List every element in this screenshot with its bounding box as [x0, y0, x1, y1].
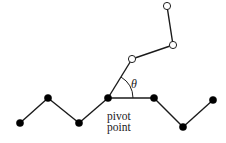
- pivot-monomer: [104, 94, 111, 101]
- bond: [132, 45, 173, 59]
- pivot-label-line2: point: [107, 121, 131, 134]
- fixed-monomer: [179, 123, 186, 130]
- rotated-monomer: [169, 41, 176, 48]
- bond: [48, 98, 79, 123]
- bond: [79, 98, 108, 123]
- rotated-monomers: [128, 2, 176, 62]
- bond: [108, 59, 132, 98]
- rotated-chain-bonds: [108, 6, 173, 98]
- bond: [183, 100, 213, 127]
- angle-label: θ: [131, 77, 137, 91]
- fixed-monomer: [209, 96, 216, 103]
- pivot-diagram: θ pivot point: [0, 0, 226, 143]
- bond: [154, 98, 183, 127]
- rotated-monomer: [163, 2, 170, 9]
- bond: [20, 98, 48, 123]
- fixed-monomer: [44, 94, 51, 101]
- fixed-monomer: [16, 119, 23, 126]
- fixed-monomer: [75, 119, 82, 126]
- rotated-monomer: [128, 55, 135, 62]
- bond: [167, 6, 173, 45]
- fixed-monomer: [150, 94, 157, 101]
